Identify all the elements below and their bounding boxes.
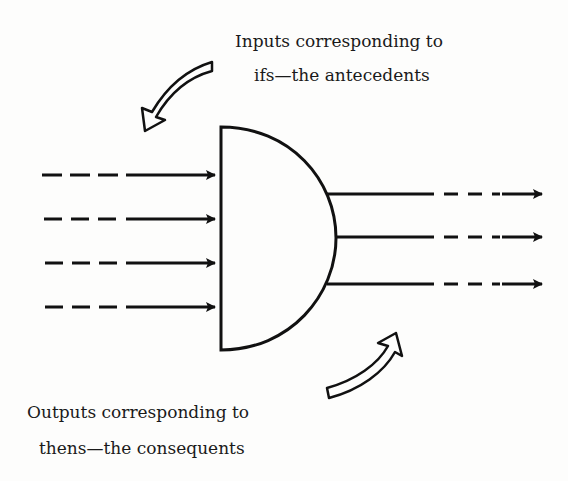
gate-shape (221, 127, 336, 350)
curved-arrow-inputs-icon (142, 62, 212, 131)
inputs-label-line1: Inputs corresponding to (235, 33, 443, 50)
curved-arrow-outputs-icon (327, 333, 402, 398)
output-arrows (327, 194, 542, 284)
input-arrows (42, 175, 215, 307)
outputs-label-line2: thens—the consequents (39, 440, 245, 457)
outputs-label-line1: Outputs corresponding to (27, 404, 249, 421)
inputs-label-line2: ifs—the antecedents (254, 67, 430, 84)
